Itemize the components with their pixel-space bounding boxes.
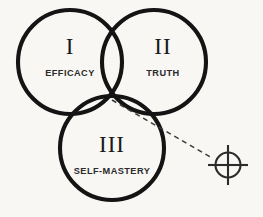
venn-diagram-canvas: I EFFICACY II TRUTH III SELF-MASTERY [0, 0, 263, 217]
crosshair-center-dot [226, 163, 229, 166]
circle-set-one [18, 10, 122, 114]
label-set-one: EFFICACY [45, 68, 95, 78]
label-set-three: SELF-MASTERY [74, 166, 151, 176]
venn-diagram-svg: I EFFICACY II TRUTH III SELF-MASTERY [0, 0, 263, 217]
label-set-two: TRUTH [146, 68, 179, 78]
numeral-set-two: II [154, 34, 171, 59]
numeral-set-one: I [66, 34, 75, 59]
circle-set-two [102, 10, 206, 114]
crosshair-target-icon [208, 145, 248, 185]
numeral-set-three: III [99, 132, 125, 157]
